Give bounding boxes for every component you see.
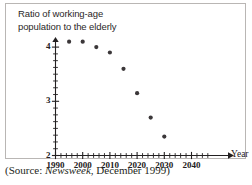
data-points (67, 40, 166, 139)
axis-lines (52, 37, 234, 159)
source-publication: Newsweek (45, 164, 91, 176)
figure-container: Ratio of working-age population to the e… (0, 0, 252, 185)
y-tick-label: 3 (39, 95, 51, 105)
y-tick-label: 4 (39, 41, 51, 51)
source-prefix: (Source: (5, 164, 45, 176)
y-tick-label: 2 (39, 150, 51, 160)
x-tick-label: 2040 (177, 160, 207, 170)
source-caption: (Source: Newsweek, December 1999) (5, 164, 170, 176)
source-suffix: , December 1999) (91, 164, 170, 176)
plot-area (0, 0, 252, 164)
x-axis-label: Year (231, 149, 249, 159)
